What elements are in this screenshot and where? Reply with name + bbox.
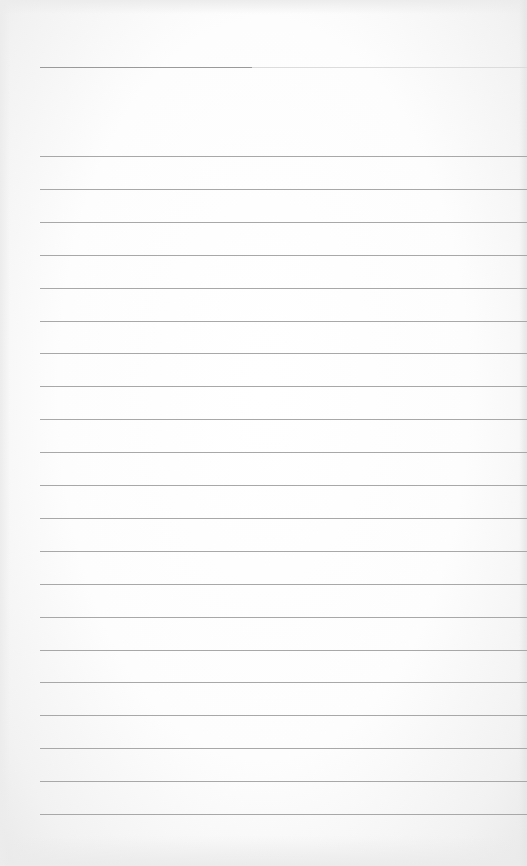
- paper-edge-top: [0, 0, 527, 14]
- ruled-line: [40, 551, 527, 552]
- ruled-line: [40, 617, 527, 618]
- ruled-line: [40, 485, 527, 486]
- ruled-line: [40, 222, 527, 223]
- notebook-paper: [0, 0, 527, 866]
- ruled-line: [40, 156, 527, 157]
- ruled-line: [40, 814, 527, 815]
- ruled-line: [40, 715, 527, 716]
- ruled-line: [40, 288, 527, 289]
- ruled-line: [40, 189, 527, 190]
- ruled-line: [40, 452, 527, 453]
- ruled-line: [40, 518, 527, 519]
- paper-edge-bottom: [0, 836, 527, 866]
- ruled-line: [40, 321, 527, 322]
- ruled-line: [40, 386, 527, 387]
- ruled-line: [40, 255, 527, 256]
- paper-edge-right: [519, 0, 527, 866]
- ruled-line: [40, 353, 527, 354]
- ruled-line: [40, 682, 527, 683]
- ruled-line: [40, 781, 527, 782]
- ruled-line: [40, 419, 527, 420]
- ruled-line: [40, 748, 527, 749]
- ruled-line: [40, 650, 527, 651]
- ruled-line: [40, 584, 527, 585]
- paper-edge-left: [0, 0, 10, 866]
- header-rule-extension: [252, 67, 527, 68]
- header-rule: [40, 67, 252, 68]
